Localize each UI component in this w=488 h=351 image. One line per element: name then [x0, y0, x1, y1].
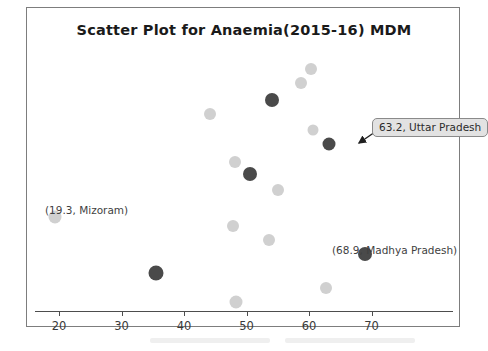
data-point: [229, 295, 242, 308]
x-axis-tick: [247, 311, 248, 316]
data-point: [272, 184, 284, 196]
x-axis-tick-label: 70: [364, 319, 379, 333]
data-point: [227, 220, 239, 232]
x-axis-tick: [122, 311, 123, 316]
x-axis-tick-label: 60: [302, 319, 317, 333]
x-axis-tick: [372, 311, 373, 316]
data-point: [204, 108, 216, 120]
x-axis-line: [35, 311, 453, 312]
x-axis-tick: [309, 311, 310, 316]
data-point: [295, 77, 307, 89]
uttar-pradesh-label: 63.2, Uttar Pradesh: [372, 118, 488, 137]
x-axis-tick-label: 20: [52, 319, 67, 333]
data-point: [263, 234, 275, 246]
mizoram-label: (19.3, Mizoram): [45, 204, 128, 216]
scan-artifact-1: [150, 338, 270, 343]
x-axis-tick: [59, 311, 60, 316]
x-axis-tick: [184, 311, 185, 316]
chart-frame: Scatter Plot for Anaemia(2015-16) MDM 20…: [26, 7, 460, 327]
bottom-strip: [0, 332, 478, 351]
callout-arrow: [27, 8, 461, 326]
data-point: [307, 125, 318, 136]
x-axis-tick-label: 50: [239, 319, 254, 333]
x-axis-tick-label: 40: [177, 319, 192, 333]
x-axis-tick-label: 30: [114, 319, 129, 333]
plot-area: 203040506070(19.3, Mizoram)(68.9, Madhya…: [27, 8, 461, 326]
scan-artifact-2: [285, 338, 415, 343]
data-point: [229, 156, 241, 168]
data-point: [323, 138, 336, 151]
data-point: [148, 266, 163, 281]
madhya-pradesh-label: (68.9, Madhya Pradesh): [332, 244, 457, 256]
data-point: [243, 167, 257, 181]
data-point: [305, 63, 317, 75]
data-point: [320, 282, 332, 294]
data-point: [265, 93, 279, 107]
